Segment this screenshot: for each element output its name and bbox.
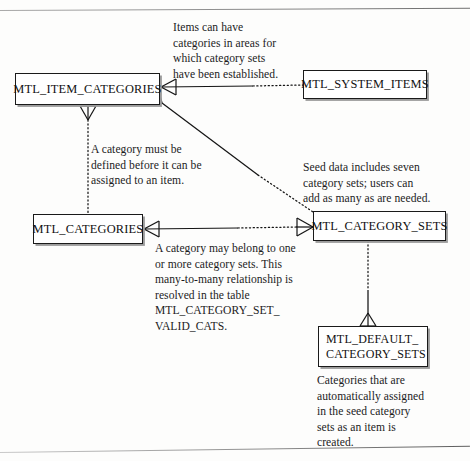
- entity-label-line-1: MTL_DEFAULT_: [326, 332, 418, 346]
- diagram-page: MTL_ITEM_CATEGORIES MTL_SYSTEM_ITEMS MTL…: [0, 0, 470, 461]
- entity-mtl-item-categories[interactable]: MTL_ITEM_CATEGORIES: [15, 73, 160, 105]
- note-seed-data: Seed data includes seven category sets; …: [303, 160, 468, 207]
- note-many-to-many: A category may belong to one or more cat…: [155, 241, 310, 334]
- entity-label-line-2: CATEGORY_SETS: [326, 347, 426, 361]
- page-rule-top: [0, 8, 470, 11]
- note-items-can-have: Items can have categories in areas for w…: [173, 20, 323, 82]
- note-category-must-be-defined: A category must be defined before it can…: [91, 142, 236, 189]
- entity-mtl-default-category-sets[interactable]: MTL_DEFAULT_ CATEGORY_SETS: [318, 326, 428, 367]
- entity-mtl-categories[interactable]: MTL_CATEGORIES: [33, 214, 143, 244]
- note-auto-assigned-categories: Categories that are automatically assign…: [317, 373, 462, 451]
- entity-mtl-category-sets[interactable]: MTL_CATEGORY_SETS: [313, 211, 446, 241]
- link-category-sets-default-category-sets: [360, 241, 376, 326]
- link-categories-category-sets: [144, 218, 313, 237]
